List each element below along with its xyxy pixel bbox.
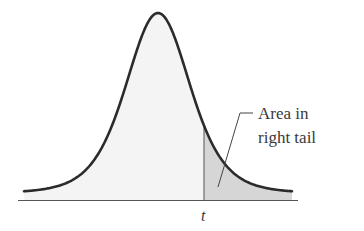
curve-body-fill: [24, 13, 292, 200]
annotation-text-line2: right tail: [258, 128, 316, 147]
t-distribution-figure: Area in right tail t: [0, 0, 364, 231]
chart-canvas: Area in right tail t: [0, 0, 364, 231]
t-tick-label: t: [201, 207, 206, 224]
annotation-text-line1: Area in: [258, 104, 309, 123]
